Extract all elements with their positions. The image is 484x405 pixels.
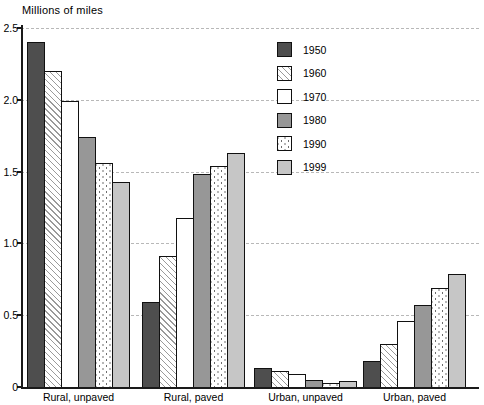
bar-1950-urban-unpaved	[254, 368, 272, 388]
bar-1950-urban-paved	[363, 361, 381, 388]
y-tick-label-2.0: 2.0	[1, 94, 18, 106]
legend-item-1970: 1970	[277, 89, 326, 104]
legend-item-1990: 1990	[277, 136, 326, 151]
y-tick-label-2.5: 2.5	[1, 22, 18, 34]
legend-label-1970: 1970	[303, 91, 326, 103]
bar-1960-urban-paved	[380, 344, 398, 388]
bar-1970-rural-paved	[176, 218, 194, 388]
legend-label-1950: 1950	[303, 44, 326, 56]
category-label-1: Rural, unpaved	[27, 391, 130, 403]
bar-1950-rural-unpaved	[27, 42, 45, 388]
bar-1960-urban-unpaved	[271, 371, 289, 388]
legend-swatch-1970	[277, 89, 292, 104]
bar-1999-rural-unpaved	[112, 182, 130, 388]
bar-1980-rural-unpaved	[78, 137, 96, 388]
legend-label-1999: 1999	[303, 161, 326, 173]
bar-1980-urban-paved	[414, 305, 432, 388]
legend-item-1980: 1980	[277, 113, 326, 128]
bar-1990-urban-paved	[431, 288, 449, 388]
bar-1970-urban-unpaved	[288, 374, 306, 388]
gridline-2.5	[21, 28, 479, 29]
road-mileage-bar-chart: Millions of miles 00.51.01.52.02.5Rural,…	[0, 0, 484, 405]
y-tick-label-0: 0	[1, 381, 18, 393]
legend-swatch-1980	[277, 113, 292, 128]
legend-item-1950: 1950	[277, 42, 326, 57]
y-tick-label-0.5: 0.5	[1, 309, 18, 321]
legend-item-1960: 1960	[277, 66, 326, 81]
legend-label-1990: 1990	[303, 138, 326, 150]
category-label-2: Rural, paved	[142, 391, 245, 403]
bar-1960-rural-unpaved	[44, 71, 62, 388]
y-axis-line	[21, 25, 23, 389]
gridline-2.0	[21, 100, 479, 101]
bar-1980-rural-paved	[193, 174, 211, 388]
bar-1999-rural-paved	[227, 153, 245, 388]
y-tick-label-1.5: 1.5	[1, 166, 18, 178]
bar-1999-urban-paved	[448, 274, 466, 388]
y-axis-title: Millions of miles	[22, 4, 103, 16]
legend-swatch-1950	[277, 42, 292, 57]
bar-1950-rural-paved	[142, 302, 160, 388]
legend-label-1980: 1980	[303, 114, 326, 126]
bar-1960-rural-paved	[159, 256, 177, 388]
y-tick-label-1.0: 1.0	[1, 237, 18, 249]
legend-item-1999: 1999	[277, 160, 326, 175]
category-label-4: Urban, paved	[363, 391, 466, 403]
bar-1970-urban-paved	[397, 321, 415, 388]
x-axis-line	[21, 387, 479, 389]
bar-1990-rural-unpaved	[95, 163, 113, 388]
legend-swatch-1999	[277, 160, 292, 175]
bar-1970-rural-unpaved	[61, 101, 79, 388]
bar-1990-rural-paved	[210, 166, 228, 388]
legend-swatch-1990	[277, 136, 292, 151]
legend-label-1960: 1960	[303, 67, 326, 79]
legend-swatch-1960	[277, 66, 292, 81]
category-label-3: Urban, unpaved	[254, 391, 357, 403]
